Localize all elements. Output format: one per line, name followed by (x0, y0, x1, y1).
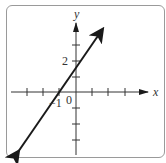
origin-label: 0 (66, 93, 72, 107)
plotted-line (18, 30, 102, 152)
coordinate-plane: y x 0 −1 2 (0, 0, 166, 163)
y-tick-label-2: 2 (62, 54, 68, 68)
y-axis-label: y (73, 7, 80, 21)
x-intercept-label: −1 (49, 96, 62, 110)
x-axis-label: x (152, 85, 159, 99)
